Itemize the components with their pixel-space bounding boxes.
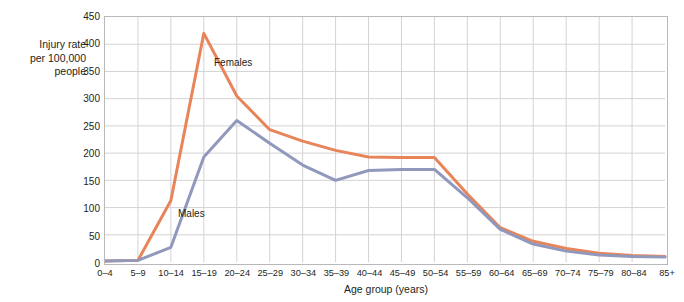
data-series-layer xyxy=(105,17,667,264)
plot-area xyxy=(104,16,668,265)
x-axis-tick-label: 85+ xyxy=(659,268,675,279)
series-label-males: Males xyxy=(178,208,205,219)
y-axis-tick-label: 50 xyxy=(70,232,100,242)
y-axis-tick-label: 450 xyxy=(70,12,100,22)
y-axis-tick-label: 200 xyxy=(70,149,100,159)
x-axis-tick-label: 60–64 xyxy=(489,268,515,279)
y-axis-tick-label: 0 xyxy=(70,259,100,269)
y-axis-tick-label: 150 xyxy=(70,177,100,187)
x-axis-tick-label: 10–14 xyxy=(158,268,184,279)
x-axis-tick-label: 25–29 xyxy=(258,268,284,279)
x-axis-tick-label: 30–34 xyxy=(291,268,317,279)
y-axis-tick-label: 350 xyxy=(70,67,100,77)
x-axis-tick-label: 80–84 xyxy=(621,268,647,279)
y-axis-tick-labels: 050100150200250300350400450 xyxy=(66,0,100,302)
x-axis-tick-label: 35–39 xyxy=(324,268,350,279)
x-axis-tick-label: 0–4 xyxy=(97,268,112,279)
x-axis-tick-label: 70–74 xyxy=(555,268,581,279)
y-axis-tick-label: 300 xyxy=(70,94,100,104)
x-axis-tick-label: 75–79 xyxy=(588,268,614,279)
x-axis-tick-label: 20–24 xyxy=(224,268,250,279)
y-axis-tick-label: 400 xyxy=(70,39,100,49)
x-axis-tick-label: 15–19 xyxy=(191,268,217,279)
y-axis-tick-label: 250 xyxy=(70,122,100,132)
x-axis-tick-labels: 0–45–910–1415–1920–2425–2930–3435–3940–4… xyxy=(104,268,668,282)
chart-figure: Injury rate per 100,000 people 050100150… xyxy=(0,0,684,302)
x-axis-tick-label: 45–49 xyxy=(390,268,416,279)
x-axis-tick-label: 40–44 xyxy=(357,268,383,279)
series-label-females: Females xyxy=(214,57,252,68)
x-axis-tick-label: 55–59 xyxy=(456,268,482,279)
x-axis-title: Age group (years) xyxy=(104,283,668,295)
x-axis-tick-label: 65–69 xyxy=(522,268,548,279)
x-axis-tick-label: 50–54 xyxy=(423,268,449,279)
y-axis-tick-label: 100 xyxy=(70,204,100,214)
x-axis-tick-label: 5–9 xyxy=(130,268,145,279)
